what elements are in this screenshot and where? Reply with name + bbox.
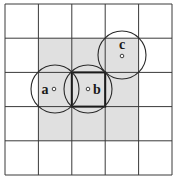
center-dot-a — [52, 87, 56, 91]
label-b: b — [93, 82, 101, 97]
center-dot-b — [86, 87, 90, 91]
center-dot-c — [120, 54, 124, 58]
label-c: c — [119, 37, 125, 52]
label-a: a — [42, 82, 49, 97]
grid-diagram: a b c — [0, 0, 176, 185]
